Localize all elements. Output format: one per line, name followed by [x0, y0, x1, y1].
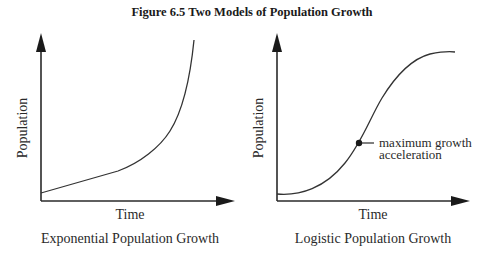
figure: Figure 6.5 Two Models of Population Grow… [0, 0, 504, 257]
y-axis-label: Population [251, 98, 266, 159]
x-axis-arrow-icon [451, 196, 470, 206]
exponential-panel: Population Time Exponential Population G… [15, 33, 235, 246]
panel-caption: Exponential Population Growth [41, 231, 219, 246]
inflection-point-marker [356, 140, 362, 146]
y-axis-arrow-icon [36, 33, 46, 52]
logistic-curve [277, 52, 455, 195]
y-axis-label: Population [15, 98, 30, 159]
x-axis-label: Time [358, 207, 387, 222]
x-axis-label: Time [115, 207, 144, 222]
figure-title: Figure 6.5 Two Models of Population Grow… [131, 5, 372, 19]
annotation-line-2: acceleration [379, 147, 442, 162]
logistic-panel: maximum growth acceleration Population T… [251, 33, 472, 246]
exponential-curve [41, 40, 194, 193]
x-axis-arrow-icon [216, 196, 235, 206]
y-axis-arrow-icon [272, 33, 282, 52]
panel-caption: Logistic Population Growth [295, 231, 451, 246]
